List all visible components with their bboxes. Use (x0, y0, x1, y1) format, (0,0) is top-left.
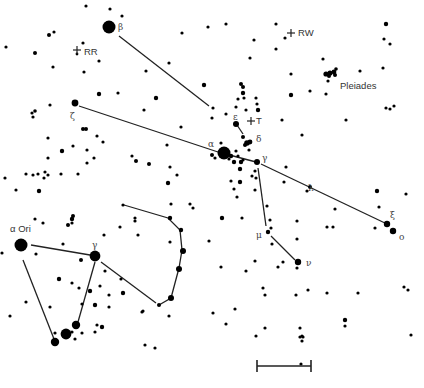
star (52, 30, 55, 33)
label-gamma-ori: γ (92, 240, 97, 250)
star (234, 149, 237, 152)
star (265, 204, 268, 207)
star (100, 325, 104, 329)
scale-bar (257, 360, 311, 372)
star (118, 225, 121, 228)
star (47, 33, 51, 37)
star (4, 45, 7, 48)
star (31, 173, 34, 176)
star (382, 37, 385, 40)
star (375, 189, 379, 193)
constellation-line-alphaori-to-gammaori (31, 245, 90, 255)
star (253, 169, 256, 172)
star (325, 291, 328, 294)
star (169, 202, 172, 205)
star (130, 154, 133, 157)
star (238, 167, 242, 171)
star (48, 103, 51, 106)
label-rw: RW (298, 27, 314, 38)
star (103, 269, 106, 272)
constellation-line-epsilon-to-gamma-dash (237, 125, 243, 134)
star (241, 135, 245, 139)
star (289, 72, 292, 75)
star (175, 173, 178, 176)
star (306, 288, 309, 291)
star (43, 170, 46, 173)
star (254, 176, 257, 179)
star (179, 228, 183, 232)
star (120, 14, 123, 17)
star (46, 173, 49, 176)
star (206, 25, 209, 28)
star (244, 108, 247, 111)
label-mu: μ (256, 230, 262, 240)
star (392, 104, 395, 107)
star (224, 22, 227, 25)
star (224, 322, 227, 325)
star (252, 38, 255, 41)
star (133, 219, 136, 222)
star (241, 158, 244, 161)
star (254, 334, 257, 337)
star (82, 70, 85, 73)
star (381, 66, 384, 69)
constellation-line-orion-club (124, 205, 182, 305)
star (388, 107, 391, 110)
star (102, 233, 105, 236)
star (406, 288, 409, 291)
star (140, 310, 143, 313)
constellation-line-zeta-to-alpha (79, 106, 218, 152)
star (270, 242, 273, 245)
star (92, 156, 95, 159)
star (167, 61, 170, 64)
star (373, 226, 376, 229)
star (85, 148, 88, 151)
star (57, 277, 61, 281)
star (295, 266, 298, 269)
star (283, 36, 286, 39)
constellation-line-gammaori-down (78, 262, 95, 322)
variable-star-markers (73, 29, 295, 125)
label-epsilon: ε (233, 112, 238, 122)
star (72, 321, 80, 329)
star (269, 226, 272, 229)
star (157, 303, 161, 307)
label-omicron: o (399, 232, 404, 242)
star (97, 92, 101, 96)
star (33, 217, 36, 220)
star (168, 165, 171, 168)
star (180, 31, 183, 34)
star (37, 189, 41, 193)
star (213, 156, 216, 159)
star (268, 218, 271, 221)
star (180, 248, 186, 254)
star (144, 69, 147, 72)
star (254, 96, 257, 99)
star (295, 219, 298, 222)
star (15, 239, 28, 252)
label-rr: RR (84, 46, 98, 57)
star (98, 284, 101, 287)
star (263, 293, 266, 296)
star (253, 188, 256, 191)
star (153, 346, 156, 349)
star (298, 326, 301, 329)
star (250, 174, 253, 177)
star (143, 343, 146, 346)
star (377, 205, 380, 208)
star (103, 21, 116, 34)
star (240, 216, 243, 219)
star (219, 265, 222, 268)
variable-star-RW-icon (287, 29, 295, 37)
star (71, 144, 74, 147)
star (59, 172, 62, 175)
star (188, 202, 191, 205)
star (211, 311, 214, 314)
star (108, 7, 111, 10)
star (70, 221, 73, 224)
star (227, 157, 230, 160)
star (51, 338, 59, 346)
star (224, 112, 227, 115)
stars (0, 4, 412, 365)
star (384, 221, 390, 227)
